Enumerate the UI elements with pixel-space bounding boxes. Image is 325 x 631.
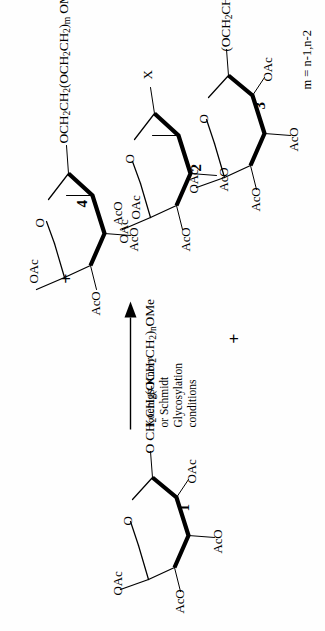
compound-1-label-oac-top: OAc bbox=[110, 571, 124, 595]
bond-o-glycosidic-4 bbox=[66, 145, 68, 173]
compound-3-structure bbox=[172, 15, 312, 195]
compound-4-label-ring-oxygen: O bbox=[32, 218, 46, 227]
bond-ring-o-right-3 bbox=[208, 75, 228, 97]
bond-aco-a-2 bbox=[176, 205, 182, 229]
bond-o-chain-3 bbox=[226, 49, 228, 75]
bond-rear-b-4 bbox=[54, 243, 64, 277]
scheme-footnote: m = n-1,n-2 bbox=[300, 30, 313, 89]
bond-ring-o-right-1 bbox=[132, 477, 152, 499]
compound-3-number: 3 bbox=[252, 102, 268, 110]
condition-line-1: Koenigs-Knorr bbox=[142, 307, 156, 427]
bond-rear-b-3 bbox=[214, 143, 224, 177]
bond-rear-a-1 bbox=[148, 567, 174, 579]
bond-o-glycosidic-1 bbox=[150, 451, 152, 477]
compound-2-label-leaving-group: X bbox=[140, 70, 154, 79]
compound-3-label-oac-right: OAc bbox=[260, 57, 274, 81]
bond-rear-b-1 bbox=[138, 545, 148, 579]
bond-front-4 bbox=[68, 173, 104, 265]
compound-1-label-ring-oxygen: O bbox=[120, 516, 134, 525]
bond-ring-o-right-4 bbox=[48, 173, 68, 199]
bond-ring-o-left-4 bbox=[46, 221, 54, 243]
condition-line-2: or Schmidt bbox=[156, 307, 170, 427]
bond-leaving-group-2 bbox=[150, 87, 154, 113]
compound-1-number: 1 bbox=[176, 504, 192, 512]
compound-1-label-aco-left: AcO bbox=[172, 589, 186, 613]
bond-aco-a-3 bbox=[250, 165, 256, 189]
compound-1-structure bbox=[96, 417, 236, 597]
bond-front-3 bbox=[228, 75, 264, 165]
compound-4-chain: OCH2CH2(OCH2CH2)m OMe bbox=[56, 0, 72, 143]
compound-3-label-oac-top: OAc bbox=[186, 169, 200, 193]
reaction-conditions: Koenigs-Knorr or Schmidt Glycosylation c… bbox=[142, 307, 198, 427]
compound-4-label-aco-bottom: AcO bbox=[126, 227, 140, 251]
compound-1-label-aco-bottom: AcO bbox=[210, 529, 224, 553]
compound-3-label-ring-oxygen: O bbox=[196, 114, 210, 123]
compound-1-label-oac-right: OAc bbox=[184, 459, 198, 483]
compound-4-label-aco-right: AcO bbox=[110, 201, 124, 225]
bond-front-1 bbox=[152, 477, 188, 567]
bond-aco-a-1 bbox=[174, 567, 180, 591]
condition-line-4: conditions bbox=[184, 307, 198, 427]
compound-3-chain: (OCH2CH2)1,2OH bbox=[218, 0, 234, 51]
bond-aco-a-4 bbox=[90, 265, 96, 289]
bond-rear-a-4 bbox=[64, 265, 90, 277]
compound-4-number: 4 bbox=[74, 200, 90, 208]
compound-2-label-aco-left: AcO bbox=[178, 227, 192, 251]
bond-rear-a-3 bbox=[224, 165, 250, 177]
reaction-arrow-icon bbox=[120, 299, 144, 429]
compound-3-label-aco-bottom: AcO bbox=[286, 127, 300, 151]
compound-3-label-aco-left: AcO bbox=[248, 187, 262, 211]
plus-products: + bbox=[224, 333, 242, 343]
condition-line-3: Glycosylation bbox=[170, 307, 184, 427]
compound-4-label-oac: OAc bbox=[26, 259, 40, 283]
reaction-scheme-canvas: OAc AcO AcO OAc O O CH2CH2(OCH2CH2)nOMe … bbox=[0, 0, 325, 631]
compound-4-label-aco-left: AcO bbox=[88, 291, 102, 315]
